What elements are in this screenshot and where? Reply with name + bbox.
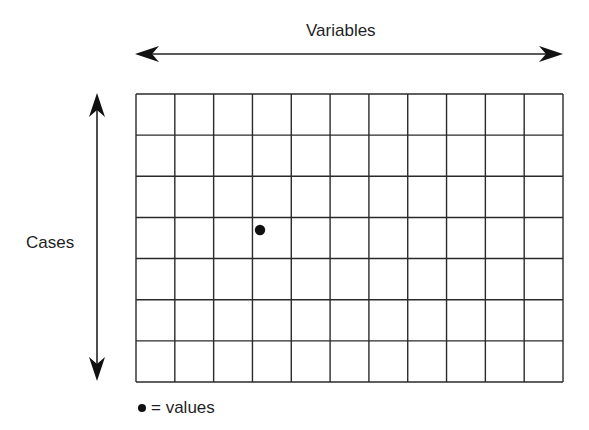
legend: = values [138,398,215,418]
legend-dot-icon [138,404,146,412]
horizontal-double-arrow-icon [135,46,563,62]
data-grid [136,94,563,382]
vertical-double-arrow-icon [89,93,105,381]
value-dot-icon [255,225,265,235]
data-matrix-diagram [0,0,589,430]
legend-text: = values [151,398,215,418]
